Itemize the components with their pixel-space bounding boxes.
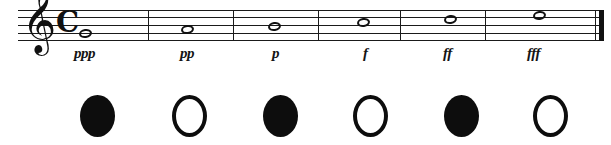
- hollow-circle: [172, 95, 207, 137]
- filled-circle: [444, 95, 479, 137]
- staff-line-5: [18, 40, 601, 41]
- dynamic-marking: pp: [180, 45, 194, 62]
- filled-circle: [80, 95, 115, 137]
- filled-circle: [263, 95, 298, 137]
- staff-line-2: [18, 17, 601, 18]
- barline: [400, 10, 401, 41]
- staff-line-3: [18, 25, 601, 26]
- dynamic-marking: ff: [443, 45, 452, 62]
- staff-line-4: [18, 33, 601, 34]
- common-time-signature: C: [56, 8, 79, 37]
- staff-line-1: [18, 10, 601, 11]
- dynamic-marking: f: [363, 45, 368, 62]
- music-notation-figure: 𝄞 C ppppppffffff: [0, 0, 611, 145]
- hollow-circle: [533, 95, 568, 137]
- final-barline-thin: [595, 10, 596, 41]
- treble-clef-icon: 𝄞: [22, 0, 56, 48]
- dynamic-marking: fff: [527, 45, 540, 62]
- barline: [148, 10, 149, 41]
- final-barline-thick: [599, 10, 604, 41]
- barline: [233, 10, 234, 41]
- dynamic-marking: p: [272, 45, 279, 62]
- music-staff: [18, 10, 601, 41]
- dynamic-marking: ppp: [74, 45, 95, 62]
- barline: [318, 10, 319, 41]
- barline: [485, 10, 486, 41]
- hollow-circle: [353, 95, 388, 137]
